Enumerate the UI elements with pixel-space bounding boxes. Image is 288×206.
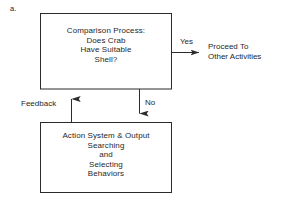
action-system-box-label: Action System & Output Searching and Sel… bbox=[41, 131, 171, 179]
panel-caption: a. bbox=[10, 4, 16, 14]
flowchart-figure: a. Comparison Process: Does Crab Have Su… bbox=[0, 0, 288, 206]
yes-edge-label: Yes bbox=[180, 37, 193, 47]
no-edge-label: No bbox=[145, 98, 155, 108]
proceed-to-other-activities-label: Proceed To Other Activities bbox=[208, 42, 288, 62]
comparison-process-box-label: Comparison Process: Does Crab Have Suita… bbox=[41, 26, 171, 64]
feedback-edge-label: Feedback bbox=[21, 99, 56, 109]
